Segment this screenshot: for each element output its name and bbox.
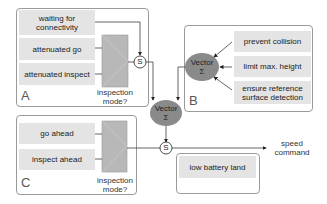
vector-sum-main-line1: Vector <box>155 104 178 113</box>
vector-sum-main-line2: Σ <box>164 113 169 122</box>
wiring-diagram <box>0 0 327 204</box>
vector-sum-b-label: Vector Σ <box>186 58 218 76</box>
vector-sum-b-line1: Vector <box>191 58 214 67</box>
vector-sum-b-line2: Σ <box>200 67 205 76</box>
vector-sum-main-label: Vector Σ <box>150 104 182 122</box>
speed-command-label: speed command <box>272 139 312 157</box>
switch-c-icon <box>102 121 127 172</box>
switch-a-icon <box>102 35 128 87</box>
suppressor-1-label: S <box>134 57 146 66</box>
suppressor-2-label: S <box>160 143 172 152</box>
